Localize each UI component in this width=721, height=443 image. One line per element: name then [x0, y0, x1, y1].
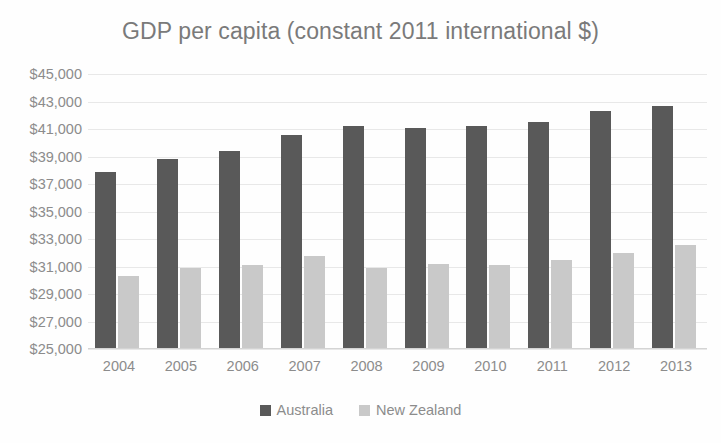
bar-group: [583, 74, 645, 349]
chart-legend: AustraliaNew Zealand: [0, 402, 721, 418]
bar-australia-2013[interactable]: [652, 106, 673, 349]
bar-australia-2005[interactable]: [157, 159, 178, 349]
bar-group: [521, 74, 583, 349]
bar-group: [459, 74, 521, 349]
bar-new-zealand-2013[interactable]: [675, 245, 696, 350]
bar-australia-2008[interactable]: [343, 126, 364, 349]
legend-label: New Zealand: [376, 402, 461, 418]
bar-australia-2012[interactable]: [590, 111, 611, 349]
y-axis: $45,000$43,000$41,000$39,000$37,000$35,0…: [8, 74, 82, 349]
x-axis: 2004200520062007200820092010201120122013: [88, 358, 707, 384]
x-tick-label: 2007: [274, 358, 336, 374]
bar-australia-2004[interactable]: [95, 172, 116, 349]
legend-label: Australia: [277, 402, 333, 418]
bar-new-zealand-2004[interactable]: [118, 276, 139, 349]
legend-item-australia[interactable]: Australia: [260, 402, 333, 418]
x-tick-label: 2013: [645, 358, 707, 374]
y-tick-label: $39,000: [30, 149, 82, 165]
legend-item-new-zealand[interactable]: New Zealand: [359, 402, 461, 418]
bar-australia-2009[interactable]: [405, 128, 426, 349]
x-tick-label: 2005: [150, 358, 212, 374]
y-tick-label: $31,000: [30, 259, 82, 275]
x-tick-label: 2004: [88, 358, 150, 374]
bar-new-zealand-2011[interactable]: [551, 260, 572, 349]
bars-layer: [88, 74, 707, 349]
bar-group: [274, 74, 336, 349]
x-tick-label: 2008: [336, 358, 398, 374]
bar-australia-2010[interactable]: [466, 126, 487, 349]
bar-australia-2011[interactable]: [528, 122, 549, 349]
gridline: [88, 349, 707, 350]
y-tick-label: $43,000: [30, 94, 82, 110]
y-tick-label: $29,000: [30, 286, 82, 302]
bar-new-zealand-2010[interactable]: [489, 265, 510, 349]
bar-group: [336, 74, 398, 349]
plot-area: [88, 74, 707, 349]
bar-group: [150, 74, 212, 349]
y-tick-label: $33,000: [30, 231, 82, 247]
y-tick-label: $35,000: [30, 204, 82, 220]
bar-group: [212, 74, 274, 349]
bar-new-zealand-2006[interactable]: [242, 265, 263, 349]
chart-title: GDP per capita (constant 2011 internatio…: [0, 18, 721, 45]
y-tick-label: $45,000: [30, 66, 82, 82]
y-tick-label: $37,000: [30, 176, 82, 192]
bar-new-zealand-2008[interactable]: [366, 268, 387, 349]
x-tick-label: 2011: [521, 358, 583, 374]
bar-new-zealand-2007[interactable]: [304, 256, 325, 350]
bar-group: [398, 74, 460, 349]
y-tick-label: $27,000: [30, 314, 82, 330]
bar-group: [645, 74, 707, 349]
x-tick-label: 2012: [583, 358, 645, 374]
bar-australia-2007[interactable]: [281, 135, 302, 350]
x-axis-baseline: [88, 348, 707, 349]
x-tick-label: 2006: [212, 358, 274, 374]
bar-new-zealand-2009[interactable]: [428, 264, 449, 349]
y-tick-label: $41,000: [30, 121, 82, 137]
gdp-per-capita-bar-chart: GDP per capita (constant 2011 internatio…: [0, 0, 721, 443]
bar-group: [88, 74, 150, 349]
bar-new-zealand-2005[interactable]: [180, 268, 201, 349]
bar-new-zealand-2012[interactable]: [613, 253, 634, 349]
x-tick-label: 2010: [459, 358, 521, 374]
legend-swatch-icon: [359, 405, 370, 416]
legend-swatch-icon: [260, 405, 271, 416]
y-tick-label: $25,000: [30, 341, 82, 357]
x-tick-label: 2009: [398, 358, 460, 374]
bar-australia-2006[interactable]: [219, 151, 240, 349]
